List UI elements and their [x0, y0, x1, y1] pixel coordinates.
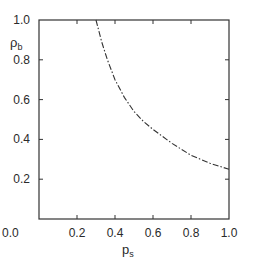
y-tick-label: 0.6	[13, 93, 30, 107]
x-tick-label: 0.2	[69, 226, 86, 240]
chart-figure: 0.00.20.40.60.81.00.20.40.60.81.0ρbps	[0, 0, 254, 265]
y-tick-label: 0.4	[13, 132, 30, 146]
x-axis-label: ps	[122, 242, 134, 259]
series-line	[96, 20, 229, 169]
y-tick-label: 1.0	[13, 13, 30, 27]
x-tick-label: 0.8	[183, 226, 200, 240]
y-tick-label: 0.8	[13, 53, 30, 67]
x-tick-label: 0.4	[107, 226, 124, 240]
y-tick-label: 0.2	[13, 172, 30, 186]
y-axis-label: ρb	[10, 35, 22, 52]
x-tick-label: 1.0	[221, 226, 238, 240]
x-tick-label: 0.6	[145, 226, 162, 240]
x-tick-label: 0.0	[2, 226, 19, 240]
plot-area: 0.00.20.40.60.81.00.20.40.60.81.0ρbps	[0, 0, 254, 265]
plot-frame	[39, 20, 229, 219]
